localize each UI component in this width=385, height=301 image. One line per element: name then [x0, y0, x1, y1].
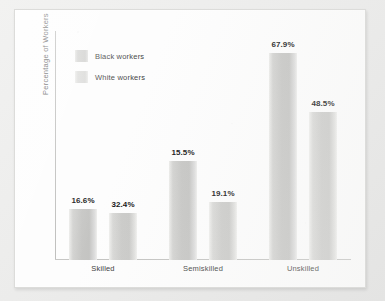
- bar-value-label: 19.1%: [211, 189, 234, 198]
- bar-rect: [209, 202, 237, 260]
- page-background: Percentage of Workers Black workers Whit…: [0, 0, 385, 301]
- bar-group-skilled: 16.6% 32.4% Skilled: [63, 31, 155, 260]
- bar-rect: [169, 161, 197, 260]
- bar-value-label: 67.9%: [271, 40, 294, 49]
- bar-group-unskilled: 67.9% 48.5% Unskilled: [263, 31, 355, 260]
- bar-rect: [309, 112, 337, 260]
- bar-rect: [269, 53, 297, 260]
- category-label-unskilled: Unskilled: [287, 264, 319, 273]
- bar-value-label: 16.6%: [71, 196, 94, 205]
- bar-value-label: 15.5%: [171, 148, 194, 157]
- category-label-semiskilled: Semiskilled: [183, 264, 223, 273]
- chart-card: Percentage of Workers Black workers Whit…: [14, 9, 366, 288]
- y-axis-title: Percentage of Workers: [41, 0, 50, 95]
- bar-value-label: 48.5%: [311, 99, 334, 108]
- y-axis-line: [55, 31, 56, 260]
- bar-group-semiskilled: 15.5% 19.1% Semiskilled: [163, 31, 255, 260]
- bar-rect: [69, 209, 97, 260]
- category-label-skilled: Skilled: [91, 264, 115, 273]
- bar-rect: [109, 213, 137, 260]
- plot-area: Percentage of Workers Black workers Whit…: [55, 31, 351, 260]
- bar-value-label: 32.4%: [111, 200, 134, 209]
